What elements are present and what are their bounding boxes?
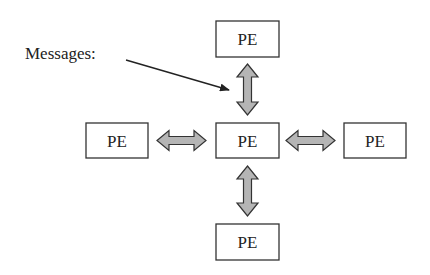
pe-label-south: PE — [238, 233, 258, 252]
messages-pointer-arrow — [126, 60, 229, 90]
pe-node-south: PE — [216, 224, 279, 260]
pe-node-east: PE — [344, 123, 406, 158]
double-arrow-east-link — [286, 131, 335, 151]
double-arrow-west-link — [157, 131, 206, 151]
pe-label-north: PE — [238, 30, 258, 49]
double-arrow-north-link — [237, 64, 258, 115]
pe-label-east: PE — [365, 132, 385, 151]
pe-label-west: PE — [107, 132, 127, 151]
double-arrow-south-link — [237, 166, 258, 216]
pe-mesh-diagram: Messages: PE PE PE PE PE — [0, 0, 430, 275]
pe-node-center: PE — [216, 123, 279, 158]
pe-node-west: PE — [86, 123, 148, 158]
messages-label: Messages: — [25, 44, 96, 63]
pe-node-north: PE — [216, 21, 279, 57]
pe-label-center: PE — [238, 132, 258, 151]
